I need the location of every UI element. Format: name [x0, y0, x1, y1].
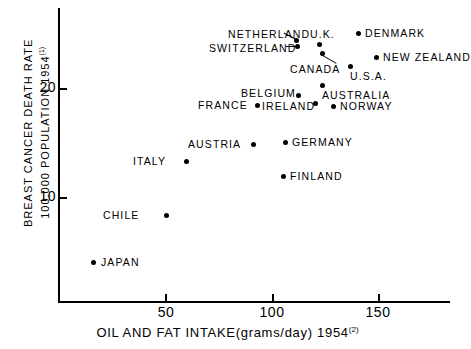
x-axis-title-year: 1954 [317, 325, 349, 340]
point-label-italy: ITALY [133, 155, 166, 167]
data-point-chile [164, 213, 169, 218]
y-axis-line [58, 8, 60, 303]
y-tick-20 [60, 88, 67, 90]
x-tick-label-100: 100 [252, 304, 292, 320]
data-point-japan [91, 260, 96, 265]
data-point-norway [331, 104, 336, 109]
y-axis-title-line2: 100,000 POPULATION 1954 [39, 55, 51, 218]
data-point-denmark [356, 31, 361, 36]
y-axis-title-line1: BREAST CANCER DEATH RATE [22, 18, 35, 248]
point-label-canada: CANADA [290, 63, 340, 75]
point-label-uk: U.K. [310, 28, 335, 40]
x-tick-label-150: 150 [358, 304, 398, 320]
point-label-denmark: DENMARK [365, 27, 425, 39]
data-point-france [255, 103, 260, 108]
data-point-germany [283, 140, 288, 145]
point-label-ireland: IRELAND [262, 100, 315, 112]
x-tick-50 [165, 294, 167, 302]
point-label-finland: FINLAND [290, 170, 343, 182]
y-axis-title-footnote: (1) [38, 47, 45, 56]
data-point-belgium [296, 93, 301, 98]
data-point-australia [320, 83, 325, 88]
x-axis-title: OIL AND FAT INTAKE(grams/day) 1954(2) [0, 325, 455, 340]
y-axis-title: BREAST CANCER DEATH RATE 100,000 POPULAT… [22, 18, 52, 248]
data-point-usa [348, 64, 353, 69]
data-point-new-zealand [374, 55, 379, 60]
point-label-netherland: NETHERLAND [228, 28, 310, 40]
point-label-austria: AUSTRIA [188, 138, 241, 150]
y-axis-title-line2-wrap: 100,000 POPULATION 1954(1) [35, 18, 52, 248]
point-label-france: FRANCE [198, 99, 248, 111]
point-label-germany: GERMANY [292, 136, 353, 148]
x-axis-title-main: OIL AND FAT INTAKE [96, 325, 235, 340]
point-label-chile: CHILE [103, 209, 139, 221]
point-label-australia: AUSTRALIA [322, 89, 390, 101]
point-label-usa: U.S.A. [350, 70, 387, 82]
data-point-finland [281, 174, 286, 179]
point-label-belgium: BELGIUM [241, 87, 296, 99]
x-tick-150 [378, 294, 380, 302]
point-label-japan: JAPAN [101, 256, 140, 268]
x-axis-line [58, 301, 450, 303]
x-axis-title-footnote: (2) [349, 325, 359, 334]
point-label-new-zealand: NEW ZEALAND [383, 51, 471, 63]
x-axis-title-paren: (grams/day) [236, 325, 313, 340]
data-point-austria [251, 142, 256, 147]
x-tick-100 [272, 294, 274, 302]
data-point-italy [184, 159, 189, 164]
y-tick-10 [60, 197, 67, 199]
point-label-switzerland: SWITZERLAND [209, 42, 296, 54]
x-tick-label-50: 50 [146, 304, 186, 320]
data-point-uk [317, 42, 322, 47]
point-label-norway: NORWAY [340, 100, 393, 112]
